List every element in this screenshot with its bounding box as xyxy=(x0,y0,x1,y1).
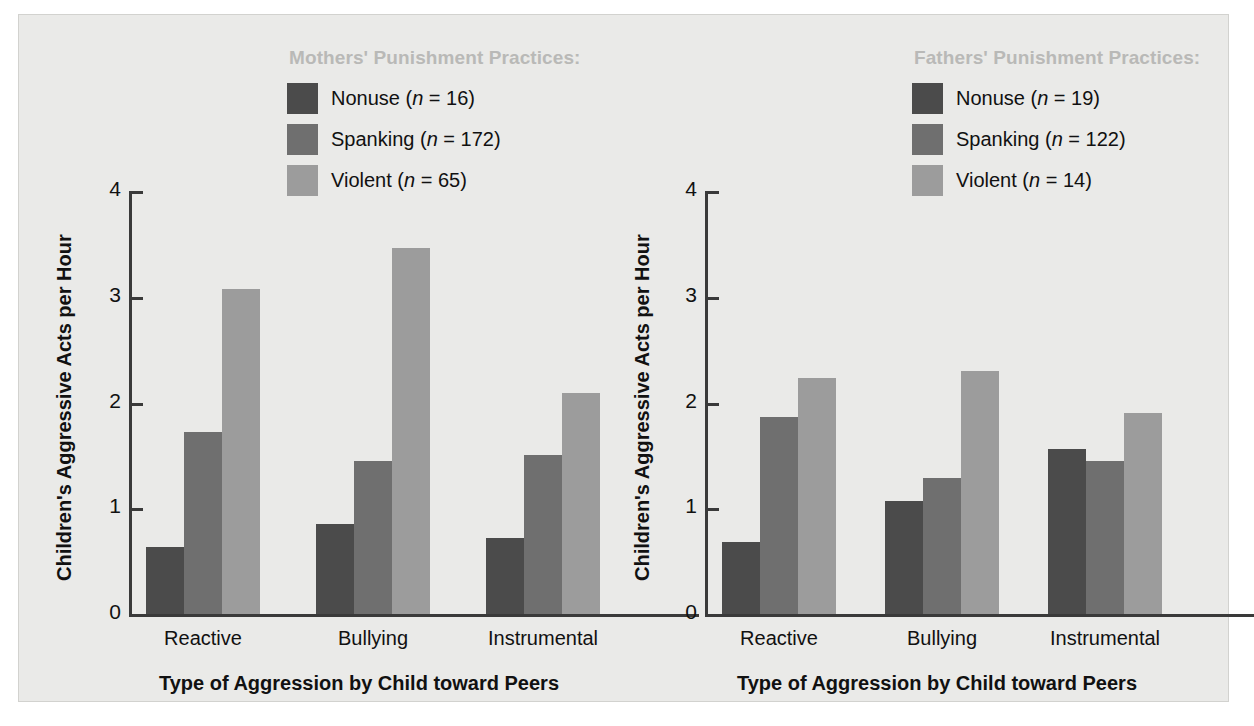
x-axis-group-label-bullying: Bullying xyxy=(293,627,453,650)
y-axis-title-fathers: Children's Aggressive Acts per Hour xyxy=(631,234,654,581)
y-axis-tick xyxy=(132,403,143,406)
bar-violent-instrumental xyxy=(1124,413,1162,614)
x-axis-group-label-instrumental: Instrumental xyxy=(1025,627,1185,650)
y-axis-tick-label: 0 xyxy=(91,600,121,624)
bar-violent-reactive xyxy=(798,378,836,614)
x-axis-group-label-bullying: Bullying xyxy=(862,627,1022,650)
y-axis-tick xyxy=(708,191,719,194)
y-axis-tick-label: 4 xyxy=(91,177,121,201)
bar-spanking-bullying xyxy=(923,478,961,614)
y-axis-tick-label: 0 xyxy=(667,600,697,624)
bar-nonuse-instrumental xyxy=(1048,449,1086,614)
y-axis-tick xyxy=(132,191,143,194)
y-axis-tick-label: 4 xyxy=(667,177,697,201)
y-axis-tick xyxy=(708,403,719,406)
bar-spanking-reactive xyxy=(760,417,798,614)
plot-area-fathers: 01234ReactiveBullyingInstrumental xyxy=(667,15,1230,703)
bar-spanking-instrumental xyxy=(1086,461,1124,614)
y-axis-tick-label: 3 xyxy=(91,283,121,307)
y-axis-tick xyxy=(132,297,143,300)
x-axis-title-fathers: Type of Aggression by Child toward Peers xyxy=(657,672,1217,695)
bar-spanking-reactive xyxy=(184,432,222,614)
bar-spanking-bullying xyxy=(354,461,392,614)
bar-nonuse-instrumental xyxy=(486,538,524,614)
y-axis-tick xyxy=(132,508,143,511)
y-axis-tick-label: 2 xyxy=(667,389,697,413)
y-axis-tick-label: 3 xyxy=(667,283,697,307)
y-axis-tick-label: 2 xyxy=(91,389,121,413)
bar-nonuse-bullying xyxy=(885,501,923,614)
bar-violent-reactive xyxy=(222,289,260,614)
y-axis-tick xyxy=(708,508,719,511)
bar-nonuse-bullying xyxy=(316,524,354,614)
bar-violent-bullying xyxy=(961,371,999,614)
x-axis-line xyxy=(129,614,699,617)
y-axis-tick-label: 1 xyxy=(667,494,697,518)
figure-frame: Mothers' Punishment Practices: Nonuse (n… xyxy=(18,14,1229,702)
plot-area-mothers: 01234ReactiveBullyingInstrumental xyxy=(19,15,667,703)
y-axis-tick-label: 1 xyxy=(91,494,121,518)
bar-spanking-instrumental xyxy=(524,455,562,614)
x-axis-title-mothers: Type of Aggression by Child toward Peers xyxy=(79,672,639,695)
bar-violent-instrumental xyxy=(562,393,600,614)
x-axis-group-label-reactive: Reactive xyxy=(123,627,283,650)
bar-violent-bullying xyxy=(392,248,430,614)
bar-nonuse-reactive xyxy=(146,547,184,614)
x-axis-group-label-reactive: Reactive xyxy=(699,627,859,650)
chart-panel-mothers: Mothers' Punishment Practices: Nonuse (n… xyxy=(19,15,667,703)
y-axis-tick xyxy=(708,297,719,300)
x-axis-group-label-instrumental: Instrumental xyxy=(463,627,623,650)
y-axis-title-mothers: Children's Aggressive Acts per Hour xyxy=(53,234,76,581)
x-axis-line xyxy=(705,614,1254,617)
chart-panel-fathers: Fathers' Punishment Practices: Nonuse (n… xyxy=(667,15,1230,703)
bar-nonuse-reactive xyxy=(722,542,760,614)
